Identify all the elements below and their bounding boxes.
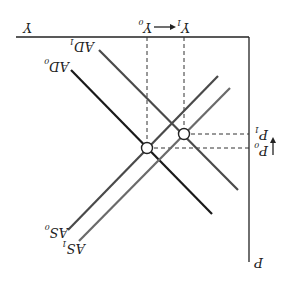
equilibrium-e0 xyxy=(142,143,153,154)
as1-label: AS1 xyxy=(62,239,86,256)
as0-label: AS0 xyxy=(45,223,69,240)
output-shift-arrow-icon xyxy=(154,24,176,30)
equilibrium-e1 xyxy=(179,129,190,140)
price-shift-arrow-icon xyxy=(270,137,276,155)
as1-curve xyxy=(79,88,230,241)
ad1-label: AD1 xyxy=(69,37,95,54)
x-axis-label: Y xyxy=(22,20,32,35)
y0-label: Y0 xyxy=(138,18,152,35)
p0-label: P0 xyxy=(254,141,269,158)
ad0-label: AD0 xyxy=(44,57,70,74)
p1-label: P1 xyxy=(254,125,269,142)
as0-curve xyxy=(68,76,218,230)
y1-label: Y1 xyxy=(176,18,190,35)
y-axis-label: P xyxy=(254,255,264,270)
ad-as-diagram: Y Y0 Y1 P1 P0 P AD1 AD0 AS0 AS1 xyxy=(0,0,295,288)
